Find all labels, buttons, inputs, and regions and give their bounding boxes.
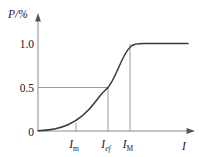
y-tick-label-half: 0.5	[20, 82, 35, 94]
x-tick-labels-group: Im Ief IM	[68, 138, 133, 153]
x-axis-arrow-icon	[187, 128, 196, 134]
x-axis-title: I	[181, 140, 187, 152]
x-tick-label-im: Im	[68, 138, 79, 153]
y-tick-labels-group: 1.0 0.5 0	[20, 38, 35, 138]
x-tick-im-subscript: m	[73, 144, 79, 153]
sigmoid-probability-chart: 1.0 0.5 0 P/% Im Ief IM I	[0, 0, 206, 157]
guide-lines-group	[38, 44, 130, 131]
plot-canvas: 1.0 0.5 0 P/% Im Ief IM I	[0, 0, 206, 157]
axes-group	[35, 13, 195, 134]
y-axis-arrow-icon	[35, 13, 41, 22]
y-tick-label-one: 1.0	[20, 38, 35, 50]
x-tick-imax-subscript: M	[127, 144, 134, 153]
x-tick-ief-subscript: ef	[105, 144, 111, 153]
y-tick-label-zero: 0	[28, 126, 34, 138]
y-axis-title: P/%	[7, 8, 28, 20]
x-tick-label-imax: IM	[122, 138, 134, 153]
x-tick-label-ief: Ief	[100, 138, 111, 153]
